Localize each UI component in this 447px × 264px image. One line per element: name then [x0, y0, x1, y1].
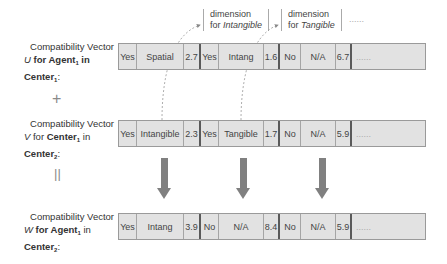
cell: No: [280, 214, 301, 239]
label-line3: Center2:: [2, 147, 114, 164]
for-text: for: [31, 54, 49, 65]
colon: :: [57, 241, 60, 252]
cell: N/A: [219, 214, 264, 239]
cell: 8.4: [264, 214, 280, 239]
down-arrow-icon: [315, 158, 329, 199]
down-arrow-icon: [157, 158, 171, 199]
label-line3: Center2:: [2, 240, 114, 257]
label-line1: Compatibility Vector: [2, 210, 114, 223]
cell-ellipsis: ......: [352, 44, 425, 69]
in-text: in: [81, 224, 91, 235]
down-arrow-icon: [236, 158, 250, 199]
entity-text: Center: [47, 131, 77, 142]
colon: :: [57, 71, 60, 82]
vector-var: W: [24, 224, 33, 235]
label-line1: Compatibility Vector: [2, 117, 114, 130]
vector-w-row: Yes Intang 3.9 No N/A 8.4 No N/A 5.9 ...…: [118, 213, 426, 240]
cell: 2.7: [184, 44, 201, 69]
cell: Intang: [219, 44, 264, 69]
cell: 5.9: [336, 214, 352, 239]
entity-text: Agent: [51, 224, 78, 235]
cell: 6.7: [336, 44, 352, 69]
vector-u-row: Yes Spatial 2.7 Yes Intang 1.6 No N/A 6.…: [118, 43, 426, 70]
label-line2: W for Agent1 in: [2, 223, 114, 240]
vector-v-label: Compatibility Vector V for Center1 in Ce…: [2, 117, 114, 164]
plus-operator: +: [52, 90, 61, 108]
vector-var: U: [24, 54, 31, 65]
cell: 5.9: [336, 121, 352, 146]
cell: Yes: [119, 214, 137, 239]
in-text: in: [79, 54, 90, 65]
in-text: in: [80, 131, 90, 142]
cell: 2.3: [184, 121, 201, 146]
center-text: Center: [24, 148, 54, 159]
cell: No: [280, 121, 301, 146]
cell: Yes: [201, 121, 219, 146]
cell: Yes: [201, 44, 219, 69]
cell: N/A: [301, 44, 336, 69]
for-text: for: [33, 224, 51, 235]
cell: Spatial: [137, 44, 184, 69]
vector-w-label: Compatibility Vector W for Agent1 in Cen…: [2, 210, 114, 257]
cell: Intangible: [137, 121, 184, 146]
cell: Intang: [137, 214, 184, 239]
label-line2: V for Center1 in: [2, 130, 114, 147]
cell: 3.9: [184, 214, 201, 239]
for-text: for: [30, 131, 46, 142]
vector-u-label: Compatibility Vector U for Agent1 in Cen…: [2, 40, 114, 87]
cell-ellipsis: ......: [352, 121, 425, 146]
cell: Tangible: [219, 121, 264, 146]
cell: Yes: [119, 44, 137, 69]
cell: No: [201, 214, 219, 239]
center-text: Center: [24, 71, 54, 82]
center-text: Center: [24, 241, 54, 252]
cell: 1.7: [264, 121, 280, 146]
label-line3: Center1:: [2, 70, 114, 87]
cell: N/A: [301, 214, 336, 239]
equals-operator: ||: [54, 166, 61, 181]
entity-text: Agent: [48, 54, 75, 65]
label-line1: Compatibility Vector: [2, 40, 114, 53]
cell: Yes: [119, 121, 137, 146]
cell: 1.6: [264, 44, 280, 69]
label-line2: U for Agent1 in: [2, 53, 114, 70]
cell: No: [280, 44, 301, 69]
cell-ellipsis: ......: [352, 214, 425, 239]
vector-v-row: Yes Intangible 2.3 Yes Tangible 1.7 No N…: [118, 120, 426, 147]
cell: N/A: [301, 121, 336, 146]
colon: :: [57, 148, 60, 159]
